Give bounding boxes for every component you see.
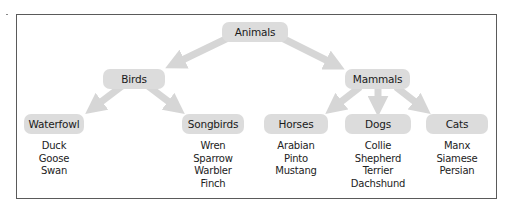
list-item: Pinto <box>264 153 328 166</box>
list-item: Wren <box>182 140 244 153</box>
node-label: Birds <box>121 73 146 85</box>
node-label: Animals <box>235 26 275 38</box>
arrow-animals-birds <box>174 37 230 64</box>
node-label: Mammals <box>353 73 402 85</box>
list-cats: Manx Siamese Persian <box>426 140 488 178</box>
list-item: Persian <box>426 165 488 178</box>
list-item: Dachshund <box>345 178 411 191</box>
arrow-birds-waterfowl <box>93 86 122 108</box>
node-dogs: Dogs <box>345 114 411 134</box>
node-cats: Cats <box>426 114 488 134</box>
list-item: Collie <box>345 140 411 153</box>
list-waterfowl: Duck Goose Swan <box>24 140 84 178</box>
node-horses: Horses <box>264 114 328 134</box>
list-item: Manx <box>426 140 488 153</box>
list-item: Arabian <box>264 140 328 153</box>
arrow-mammals-horses <box>333 87 360 108</box>
node-label: Songbirds <box>188 118 238 130</box>
node-animals: Animals <box>222 22 288 42</box>
list-item: Mustang <box>264 165 328 178</box>
list-item: Siamese <box>426 153 488 166</box>
list-item: Duck <box>24 140 84 153</box>
node-songbirds: Songbirds <box>182 114 244 134</box>
node-waterfowl: Waterfowl <box>24 114 84 134</box>
list-dogs: Collie Shepherd Terrier Dachshund <box>345 140 411 190</box>
node-label: Dogs <box>365 118 391 130</box>
node-birds: Birds <box>103 69 165 89</box>
list-item: Sparrow <box>182 153 244 166</box>
arrow-mammals-cats <box>396 87 423 108</box>
list-songbirds: Wren Sparrow Warbler Finch <box>182 140 244 190</box>
list-item: Goose <box>24 153 84 166</box>
list-item: Warbler <box>182 165 244 178</box>
node-mammals: Mammals <box>345 69 410 89</box>
list-horses: Arabian Pinto Mustang <box>264 140 328 178</box>
list-item: Shepherd <box>345 153 411 166</box>
list-item: Finch <box>182 178 244 191</box>
arrow-birds-songbirds <box>148 86 177 108</box>
arrow-animals-mammals <box>280 37 336 65</box>
node-label: Waterfowl <box>29 118 80 130</box>
node-label: Horses <box>279 118 314 130</box>
list-item: Swan <box>24 165 84 178</box>
list-item: Terrier <box>345 165 411 178</box>
node-label: Cats <box>446 118 469 130</box>
